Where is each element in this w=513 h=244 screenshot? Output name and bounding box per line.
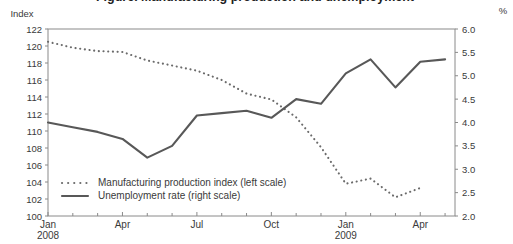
left-tick-label: 116 — [27, 75, 42, 86]
chart-canvas: Index%1221201181161141121101081061041021… — [0, 0, 513, 244]
right-tick-label: 3.0 — [462, 164, 475, 175]
right-tick-label: 6.0 — [462, 24, 475, 35]
left-tick-label: 106 — [26, 160, 42, 171]
y-axis-left-title: Index — [10, 8, 33, 19]
left-tick-label: 102 — [26, 194, 42, 205]
y-axis-right-title: % — [499, 5, 508, 16]
x-tick-label: Apr — [115, 219, 131, 230]
right-tick-label: 2.5 — [462, 187, 475, 198]
right-tick-label: 4.0 — [462, 117, 475, 128]
x-tick-year-label: 2009 — [335, 230, 358, 241]
left-tick-label: 118 — [27, 58, 42, 69]
legend-label-production: Manufacturing production index (left sca… — [98, 177, 286, 188]
left-tick-label: 122 — [26, 24, 42, 35]
chart-page: Figure. Manufacturing production and une… — [0, 0, 513, 244]
right-tick-label: 5.0 — [462, 70, 475, 81]
right-tick-label: 4.5 — [462, 94, 475, 105]
left-tick-label: 112 — [27, 109, 42, 120]
left-tick-label: 120 — [26, 41, 42, 52]
right-tick-label: 3.5 — [462, 140, 475, 151]
dotted-line-icon — [60, 179, 90, 187]
x-tick-label: Apr — [412, 219, 428, 230]
solid-line-icon — [60, 192, 90, 200]
chart-legend: Manufacturing production index (left sca… — [60, 176, 286, 202]
right-tick-label: 5.5 — [462, 47, 475, 58]
x-tick-label: Jan — [338, 219, 354, 230]
x-tick-year-label: 2008 — [37, 230, 60, 241]
legend-item-production: Manufacturing production index (left sca… — [60, 176, 286, 189]
series-line-unemployment — [48, 59, 445, 157]
x-tick-label: Jan — [40, 219, 56, 230]
right-tick-label: 2.0 — [462, 211, 475, 222]
series-line-production — [48, 42, 420, 198]
left-tick-label: 114 — [27, 92, 42, 103]
x-tick-label: Oct — [264, 219, 280, 230]
left-tick-label: 104 — [26, 177, 42, 188]
x-tick-label: Jul — [191, 219, 204, 230]
left-tick-label: 108 — [26, 143, 42, 154]
legend-label-unemployment: Unemployment rate (right scale) — [98, 190, 240, 201]
legend-item-unemployment: Unemployment rate (right scale) — [60, 189, 286, 202]
left-tick-label: 110 — [27, 126, 42, 137]
